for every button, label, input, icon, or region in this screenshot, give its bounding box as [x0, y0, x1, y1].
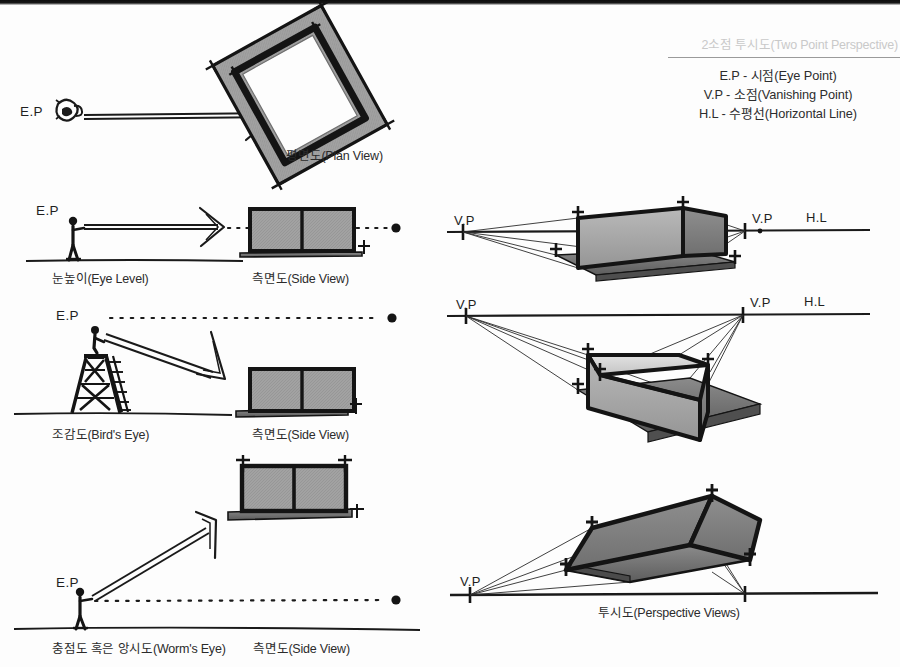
side-view-box-worms-eye — [228, 455, 364, 520]
legend-block: 2소점 투시도(Two Point Perspective) E.P - 시점(… — [662, 34, 900, 123]
caption-eye-level: 눈높이(Eye Level) — [52, 268, 148, 287]
eye-level-ground-line — [26, 260, 243, 261]
box-right-face-2 — [700, 365, 708, 440]
horizon-line-3 — [450, 593, 878, 595]
standing-person-figure — [66, 217, 84, 260]
perspective-birds-eye — [447, 307, 870, 442]
perspective-eye-level — [447, 196, 870, 281]
caption-birds-eye: 조감도(Bird's Eye) — [52, 424, 149, 443]
legend-title: 2소점 투시도(Two Point Perspective) — [662, 34, 900, 57]
person-on-tower-figure — [91, 326, 104, 353]
observation-tower — [72, 354, 131, 413]
side-view-box-birds-eye — [236, 369, 362, 417]
plan-view-shape — [203, 0, 397, 194]
box-right-face-1 — [683, 208, 726, 256]
caption-perspective-views: 투시도(Perspective Views) — [598, 602, 740, 621]
plan-view-group — [56, 0, 397, 194]
vp-label-right-2: V.P — [750, 295, 771, 310]
ep-label-birds-eye: E.P — [56, 308, 79, 323]
legend-item-hl: H.L - 수평선(Horizontal Line) — [662, 104, 900, 123]
legend-divider — [668, 57, 900, 58]
box-top-face-2 — [588, 355, 708, 375]
vp-label-right-1: V.P — [752, 211, 773, 226]
perspective-worms-eye — [450, 484, 878, 603]
worms-eye-person-figure — [73, 588, 92, 629]
ep-label-worms-eye: E.P — [56, 575, 79, 590]
birds-eye-ground-line — [14, 413, 232, 415]
worms-eye-group — [14, 455, 420, 630]
horizon-line-2 — [447, 314, 870, 316]
legend-item-vp: V.P - 소점(Vanishing Point) — [662, 85, 900, 104]
ep-label-plan: E.P — [20, 104, 43, 119]
birds-eye-dotted-horizon — [110, 313, 397, 322]
caption-side-view-birds-eye: 측면도(Side View) — [252, 424, 349, 443]
diagram-stage: E.P 평면도(Plan View) E.P 눈높이(Eye Level) 측면… — [0, 0, 900, 667]
vp-label-left-2: V.P — [456, 297, 477, 312]
eye-level-group — [26, 208, 401, 261]
caption-side-view-worms-eye: 측면도(Side View) — [253, 638, 350, 657]
eye-level-sight-arrow — [84, 208, 224, 246]
hl-label-1: H.L — [806, 210, 827, 225]
worms-eye-sight-arrow — [92, 512, 216, 601]
eye-icon — [56, 100, 82, 121]
caption-side-view-eye-level: 측면도(Side View) — [252, 268, 349, 287]
hl-label-2: H.L — [804, 294, 825, 309]
birds-eye-group — [14, 313, 397, 417]
caption-plan-view: 평면도(Plan View) — [286, 145, 383, 164]
worms-eye-dotted-horizon — [95, 595, 401, 604]
vp-label-left-1: V.P — [454, 213, 475, 228]
side-view-box-eye-level — [240, 209, 370, 257]
caption-worms-eye: 충점도 혹은 앙시도(Worm's Eye) — [52, 638, 226, 657]
vp-label-left-3: V.P — [460, 574, 481, 589]
ep-label-eye-level: E.P — [36, 203, 59, 218]
legend-item-ep: E.P - 시점(Eye Point) — [662, 66, 900, 85]
box-left-face-1 — [578, 208, 683, 268]
